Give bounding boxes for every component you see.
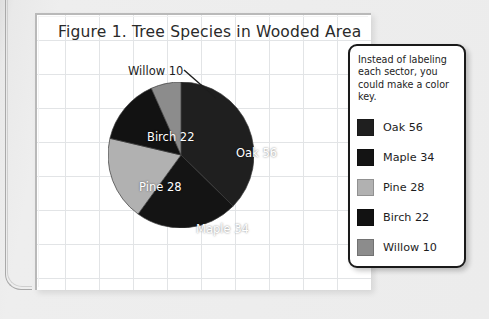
legend-item-oak: Oak 56 bbox=[357, 112, 461, 142]
legend-item-label: Willow 10 bbox=[383, 241, 437, 254]
legend-swatch-icon bbox=[357, 239, 374, 256]
pie-slice-label-birch: Birch 22 bbox=[147, 130, 194, 144]
page-binding-edge-inner bbox=[7, 0, 32, 287]
pie-slice-label-oak: Oak 56 bbox=[236, 146, 277, 160]
color-key-list: Oak 56Maple 34Pine 28Birch 22Willow 10 bbox=[357, 112, 461, 262]
legend-item-label: Pine 28 bbox=[383, 181, 424, 194]
page-title: Figure 1. Tree Species in Wooded Area bbox=[58, 23, 361, 41]
pie-chart-svg bbox=[108, 82, 254, 228]
pie-slice-label-willow: Willow 10 bbox=[128, 64, 183, 78]
legend-item-maple: Maple 34 bbox=[357, 142, 461, 172]
legend-item-birch: Birch 22 bbox=[357, 202, 461, 232]
legend-item-label: Oak 56 bbox=[383, 121, 423, 134]
legend-item-willow: Willow 10 bbox=[357, 232, 461, 262]
legend-item-label: Maple 34 bbox=[383, 151, 434, 164]
color-key-note: Instead of labeling each sector, you cou… bbox=[358, 54, 460, 104]
willow-leader-line-icon bbox=[182, 68, 224, 104]
legend-swatch-icon bbox=[357, 119, 374, 136]
legend-swatch-icon bbox=[357, 149, 374, 166]
legend-item-label: Birch 22 bbox=[383, 211, 429, 224]
pie-slice-label-maple: Maple 34 bbox=[196, 222, 249, 236]
legend-swatch-icon bbox=[357, 179, 374, 196]
legend-item-pine: Pine 28 bbox=[357, 172, 461, 202]
pie-slice-label-pine: Pine 28 bbox=[139, 180, 182, 194]
legend-swatch-icon bbox=[357, 209, 374, 226]
pie-chart bbox=[108, 82, 254, 228]
